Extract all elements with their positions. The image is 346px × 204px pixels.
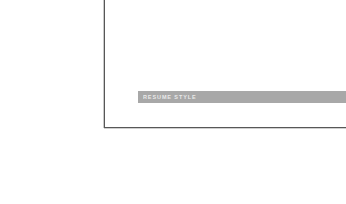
horizontal-rule-antialias [104,128,346,129]
section-header-label: RESUME STYLE [138,91,197,103]
blank-margin-below [0,129,346,204]
section-header-band: RESUME STYLE [138,91,346,103]
frame-interior-area [105,0,346,127]
blank-margin-left [0,0,103,204]
frame-vertical-rule [104,0,105,128]
document-page: RESUME STYLE [0,0,346,204]
